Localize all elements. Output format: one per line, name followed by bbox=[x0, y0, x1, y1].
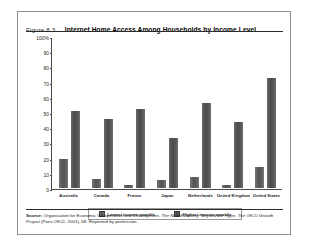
bar bbox=[267, 78, 276, 188]
y-axis-tick-mark bbox=[50, 84, 52, 85]
bar bbox=[169, 138, 178, 188]
x-axis-tick-label: Netherlands bbox=[184, 193, 217, 198]
y-axis-tick-mark bbox=[50, 114, 52, 115]
bar bbox=[222, 185, 231, 188]
y-axis-tick-label: 10 bbox=[43, 172, 49, 177]
source-divider bbox=[26, 209, 283, 210]
bar bbox=[104, 119, 113, 188]
caption-divider bbox=[26, 31, 283, 32]
source-part1: Organisation for Economic Co-operation a… bbox=[44, 213, 160, 218]
y-axis-tick-label: 80 bbox=[43, 66, 49, 71]
y-axis-tick-mark bbox=[50, 175, 52, 176]
x-axis-tick-label: Australia bbox=[52, 193, 85, 198]
y-axis-tick-mark bbox=[50, 68, 52, 69]
x-axis-tick-label: Canada bbox=[85, 193, 118, 198]
source-part2: (Paris: bbox=[41, 219, 54, 224]
x-axis-tick-label: United Kingdom bbox=[217, 193, 250, 198]
bar bbox=[71, 111, 80, 188]
plot-area bbox=[51, 38, 282, 190]
y-axis-tick-mark bbox=[50, 144, 52, 145]
source-part3: , 2001), 68. Reprinted by permission. bbox=[65, 219, 138, 224]
bar bbox=[190, 177, 199, 188]
bar bbox=[234, 122, 243, 188]
y-axis-tick-mark bbox=[50, 190, 52, 191]
y-axis-tick-label: 30 bbox=[43, 142, 49, 147]
source-italic1: The New Economy: Beyond the Hype. The bbox=[161, 213, 245, 218]
bar-group bbox=[53, 38, 86, 188]
y-axis-tick-mark bbox=[50, 99, 52, 100]
y-axis-tick-label: 60 bbox=[43, 96, 49, 101]
bar bbox=[255, 167, 264, 188]
bar-group bbox=[217, 38, 250, 188]
figure-page: Figure 8.3 Internet Home Access Among Ho… bbox=[0, 0, 309, 252]
y-axis-tick-mark bbox=[50, 53, 52, 54]
bar bbox=[59, 159, 68, 188]
bar-group bbox=[118, 38, 151, 188]
x-axis-tick-label: Japan bbox=[151, 193, 184, 198]
figure-box: Figure 8.3 Internet Home Access Among Ho… bbox=[17, 11, 291, 235]
y-axis-tick-label: 0 bbox=[46, 188, 49, 193]
bar bbox=[136, 109, 145, 188]
bar-group bbox=[249, 38, 282, 188]
bar-groups bbox=[53, 38, 282, 188]
bar-group bbox=[151, 38, 184, 188]
figure-caption: Figure 8.3 Internet Home Access Among Ho… bbox=[26, 18, 284, 30]
y-axis-labels: 100%9080706050403020100 bbox=[26, 38, 50, 190]
y-axis-tick-label: 90 bbox=[43, 51, 49, 56]
x-axis-labels: AustraliaCanadaFranceJapanNetherlandsUni… bbox=[52, 193, 283, 198]
x-axis-tick-label: France bbox=[118, 193, 151, 198]
source-smallcaps2: OECD bbox=[54, 220, 65, 224]
source-smallcaps1: OECD bbox=[247, 214, 258, 218]
source-label: Source: bbox=[26, 213, 43, 218]
bar-group bbox=[86, 38, 119, 188]
y-axis-tick-label: 100% bbox=[36, 36, 49, 41]
bar-group bbox=[184, 38, 217, 188]
y-axis-tick-label: 50 bbox=[43, 112, 49, 117]
x-axis-tick-label: United States bbox=[250, 193, 283, 198]
bar bbox=[202, 103, 211, 188]
y-axis-tick-mark bbox=[50, 38, 52, 39]
chart: 100%9080706050403020100 AustraliaCanadaF… bbox=[26, 38, 284, 208]
source-note: Source: Organisation for Economic Co-ope… bbox=[26, 213, 284, 225]
bar bbox=[92, 179, 101, 188]
y-axis-tick-label: 70 bbox=[43, 81, 49, 86]
bar bbox=[157, 180, 166, 188]
y-axis-tick-mark bbox=[50, 129, 52, 130]
y-axis-tick-mark bbox=[50, 160, 52, 161]
y-axis-tick-label: 40 bbox=[43, 127, 49, 132]
y-axis-tick-label: 20 bbox=[43, 157, 49, 162]
bar bbox=[124, 185, 133, 188]
